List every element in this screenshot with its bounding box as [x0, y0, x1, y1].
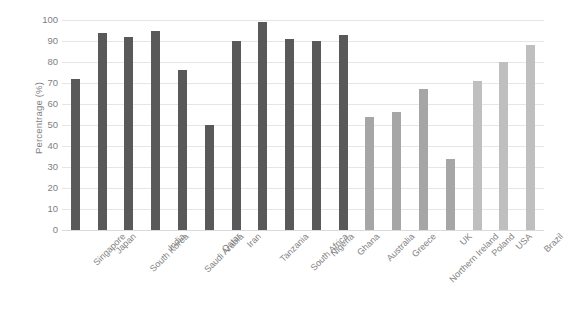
bar [258, 22, 267, 230]
x-tick-label: Nigeria [330, 232, 357, 259]
bar [392, 112, 401, 230]
bar [339, 35, 348, 230]
x-tick-label-text: Ghana [356, 232, 381, 257]
bar [499, 62, 508, 230]
y-tick-label: 40 [32, 141, 58, 151]
bars-layer [62, 20, 544, 230]
y-tick-label: 50 [32, 120, 58, 130]
bar [526, 45, 535, 230]
bar [151, 31, 160, 231]
y-tick-label: 10 [32, 204, 58, 214]
y-tick-label: 100 [32, 15, 58, 25]
y-tick-label: 30 [32, 162, 58, 172]
x-tick-label: Northern Ireland [448, 232, 500, 284]
bar [71, 79, 80, 230]
x-tick-label: Australia [385, 232, 416, 263]
y-tick-label: 20 [32, 183, 58, 193]
y-tick-label: 70 [32, 78, 58, 88]
bar [232, 41, 241, 230]
plot-area [62, 20, 544, 230]
x-tick-label-text: Nigeria [330, 232, 357, 259]
x-tick-label: UK [459, 232, 474, 247]
x-tick-label-text: USA [514, 232, 533, 251]
x-axis-tick-labels: SingaporeJapanSouth KoreaIndiaSaudi Arab… [62, 232, 544, 312]
x-tick-label: Ghana [356, 232, 381, 257]
x-tick-label: USA [514, 232, 533, 251]
bar [446, 159, 455, 230]
x-tick-label-text: Australia [385, 232, 416, 263]
bar [98, 33, 107, 230]
y-axis-tick-labels: 1009080706050403020100 [28, 20, 58, 230]
x-tick-label-text: Tanzania [278, 232, 310, 264]
x-tick-label-text: Iran [246, 232, 263, 249]
bar [285, 39, 294, 230]
bar [365, 117, 374, 230]
x-tick-label-text: Northern Ireland [448, 232, 500, 284]
bar [419, 89, 428, 230]
bar [312, 41, 321, 230]
x-tick-label-text: Brazil [542, 232, 564, 254]
bar [124, 37, 133, 230]
y-tick-label: 90 [32, 36, 58, 46]
y-tick-label: 60 [32, 99, 58, 109]
y-tick-label: 0 [32, 225, 58, 235]
x-tick-label: Brazil [542, 232, 564, 254]
y-tick-label: 80 [32, 57, 58, 67]
bar [205, 125, 214, 230]
x-tick-label: Tanzania [278, 232, 310, 264]
x-tick-label: Iran [246, 232, 263, 249]
bar [178, 70, 187, 230]
bar [473, 81, 482, 230]
x-tick-label-text: UK [459, 232, 474, 247]
